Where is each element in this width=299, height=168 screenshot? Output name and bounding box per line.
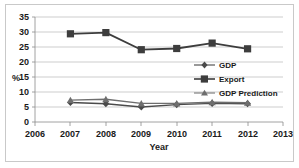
series-export: [67, 29, 251, 53]
y-tick-label: 10: [19, 87, 29, 97]
y-tick-label: 15: [19, 72, 29, 82]
square-icon: [201, 75, 208, 82]
y-tick-label: 30: [19, 27, 29, 37]
x-tick-label: 2010: [167, 129, 187, 139]
legend: GDP Export GDP Prediction: [194, 61, 278, 98]
legend-item-export[interactable]: Export: [194, 75, 245, 84]
x-tick-label: 2012: [238, 129, 258, 139]
x-tick-label: 2007: [60, 129, 80, 139]
x-tick-label: 2009: [131, 129, 151, 139]
y-axis-tick-labels: 35 30 25 20 15 10 5 0: [19, 12, 29, 127]
line-chart: 35 30 25 20 15 10 5 0 % 2006 2007 2008 2…: [0, 0, 299, 168]
data-point-square: [173, 45, 180, 52]
x-tick-label: 2006: [25, 129, 45, 139]
x-axis-title: Year: [149, 142, 169, 152]
data-point-square: [67, 30, 74, 37]
x-axis-tick-labels: 2006 2007 2008 2009 2010 2011 2012 2013: [25, 129, 293, 139]
data-point-square: [209, 40, 216, 47]
data-point-square: [102, 29, 109, 36]
legend-label-export: Export: [219, 75, 245, 84]
legend-label-gdp-prediction: GDP Prediction: [219, 89, 278, 98]
y-axis-title: %: [12, 73, 20, 83]
y-tick-label: 25: [19, 42, 29, 52]
data-point-square: [244, 45, 251, 52]
x-tick-label: 2013: [273, 129, 293, 139]
x-tick-marks: [35, 122, 283, 126]
diamond-icon: [201, 62, 207, 69]
x-tick-label: 2008: [96, 129, 116, 139]
x-tick-label: 2011: [202, 129, 222, 139]
legend-item-gdp-prediction[interactable]: GDP Prediction: [194, 89, 278, 98]
y-tick-label: 5: [24, 102, 29, 112]
legend-label-gdp: GDP: [219, 61, 237, 70]
y-tick-label: 20: [19, 57, 29, 67]
y-tick-marks: [32, 17, 35, 122]
y-tick-label: 35: [19, 12, 29, 22]
data-point-square: [138, 46, 145, 53]
y-tick-label: 0: [24, 117, 29, 127]
chart-container: 35 30 25 20 15 10 5 0 % 2006 2007 2008 2…: [0, 0, 299, 168]
series-gdp: [67, 99, 251, 111]
